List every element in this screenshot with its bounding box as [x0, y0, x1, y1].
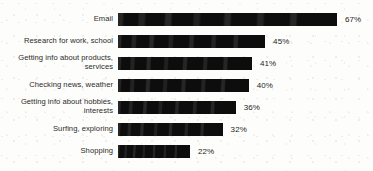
- bar: [118, 35, 265, 48]
- bar-chart: Email67%Research for work, school45%Gett…: [0, 0, 373, 171]
- bar-value-label: 67%: [345, 15, 361, 24]
- bar-track: 67%: [118, 8, 373, 30]
- bar-row: Getting info about products, services41%: [0, 52, 373, 74]
- bar: [118, 79, 249, 92]
- bar-track: 22%: [118, 140, 373, 162]
- category-label: Surfing, exploring: [0, 125, 118, 134]
- bar-row: Research for work, school45%: [0, 30, 373, 52]
- category-label: Getting info about hobbies, interests: [0, 98, 118, 115]
- category-label: Getting info about products, services: [0, 54, 118, 71]
- bar-track: 36%: [118, 96, 373, 118]
- bar-value-label: 40%: [257, 81, 273, 90]
- bar: [118, 123, 223, 136]
- bar-track: 40%: [118, 74, 373, 96]
- bar-value-label: 36%: [244, 103, 260, 112]
- category-label: Shopping: [0, 147, 118, 156]
- bar-track: 45%: [118, 30, 373, 52]
- category-label: Email: [0, 15, 118, 24]
- bar: [118, 101, 236, 114]
- category-label: Checking news, weather: [0, 81, 118, 90]
- bar-value-label: 41%: [260, 59, 276, 68]
- bar-row: Surfing, exploring32%: [0, 118, 373, 140]
- bar-value-label: 45%: [273, 37, 289, 46]
- bar: [118, 145, 190, 158]
- bar-row: Email67%: [0, 8, 373, 30]
- bar-row: Getting info about hobbies, interests36%: [0, 96, 373, 118]
- bar: [118, 13, 337, 26]
- bar-track: 41%: [118, 52, 373, 74]
- bar: [118, 57, 252, 70]
- bar-track: 32%: [118, 118, 373, 140]
- category-label: Research for work, school: [0, 37, 118, 46]
- bar-row: Checking news, weather40%: [0, 74, 373, 96]
- chart-rows: Email67%Research for work, school45%Gett…: [0, 8, 373, 162]
- bar-value-label: 32%: [231, 125, 247, 134]
- bar-row: Shopping22%: [0, 140, 373, 162]
- bar-value-label: 22%: [198, 147, 214, 156]
